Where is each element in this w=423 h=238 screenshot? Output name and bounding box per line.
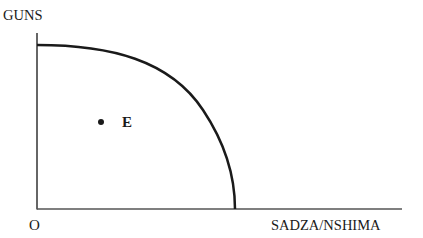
y-axis-label: GUNS [3,8,42,23]
origin-label: O [29,218,40,233]
x-axis-label: SADZA/NSHIMA [271,218,381,233]
point-e-dot [98,119,104,125]
production-possibilities-curve [37,45,235,209]
ppf-diagram [0,0,423,238]
point-e-label: E [122,115,132,130]
